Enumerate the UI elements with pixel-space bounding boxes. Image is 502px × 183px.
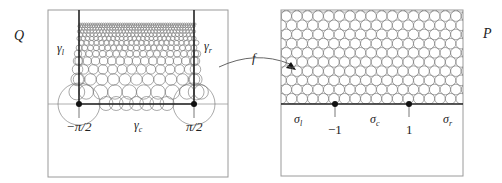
right-frame <box>281 10 463 176</box>
left-vertex-dot <box>76 101 82 107</box>
domain-label-p: P <box>482 26 492 41</box>
right-vertex-dot <box>191 101 197 107</box>
tick-label-pi-half: π/2 <box>186 119 203 134</box>
gamma-r-label: γr <box>204 39 213 55</box>
conformal-map-diagram: Q γl γr γc −π/2 π/2 f P σl σc σr −1 1 <box>0 0 502 183</box>
gamma-l-label: γl <box>57 41 65 57</box>
sigma-c-label: σc <box>370 112 380 128</box>
neg-one-dot <box>332 101 338 107</box>
right-circle-packing <box>265 2 472 104</box>
tick-label-neg-one: −1 <box>328 122 342 137</box>
left-circle-packing <box>58 23 215 125</box>
domain-label-q: Q <box>14 28 24 43</box>
sigma-l-label: σl <box>294 112 303 128</box>
gamma-c-label: γc <box>134 118 143 134</box>
left-panel-q: Q γl γr γc −π/2 π/2 <box>14 10 228 177</box>
map-arrow-f: f <box>219 50 296 70</box>
sigma-r-label: σr <box>443 112 453 128</box>
right-panel-p: P σl σc σr −1 1 <box>265 2 492 176</box>
tick-label-neg-pi-half: −π/2 <box>66 119 92 134</box>
left-frame <box>48 10 228 177</box>
one-dot <box>406 101 412 107</box>
tick-label-one: 1 <box>406 122 413 137</box>
